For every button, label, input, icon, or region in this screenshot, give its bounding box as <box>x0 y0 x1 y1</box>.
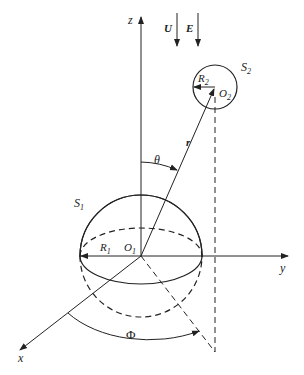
position-vector-label: r <box>186 136 191 148</box>
theta-label: θ <box>154 153 160 167</box>
phi-label: Φ <box>126 327 136 342</box>
e-field-label: E <box>185 22 193 34</box>
center-o1-label: O1 <box>124 241 136 256</box>
radius-r1-label: R1 <box>99 241 111 256</box>
sphere-s1-equator-front <box>80 256 202 284</box>
sphere-s1-lower-hemisphere <box>80 256 202 317</box>
radius-r2-label: R2 <box>197 72 209 87</box>
x-axis-label: x <box>17 351 24 365</box>
two-sphere-coordinate-diagram: z y x U E S1 R1 O1 S2 R2 O2 r θ Φ <box>0 0 304 375</box>
center-o2-label: O2 <box>219 87 231 102</box>
xy-projection-dashed <box>141 256 215 352</box>
y-axis-label: y <box>279 261 286 275</box>
u-field-label: U <box>164 22 173 34</box>
position-vector-r <box>141 89 214 256</box>
z-axis-label: z <box>127 13 133 27</box>
sphere-s1-label: S1 <box>74 196 84 212</box>
sphere-s2-label: S2 <box>241 60 251 76</box>
x-axis <box>20 256 141 350</box>
